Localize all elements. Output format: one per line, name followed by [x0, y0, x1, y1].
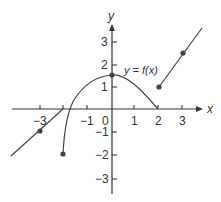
y-tick-label: 3 — [101, 35, 108, 49]
y-axis-arrow-icon — [109, 24, 115, 31]
point-marker — [37, 128, 42, 133]
x-tick-label: 2 — [155, 114, 162, 128]
y-tick-label: 2 — [101, 58, 108, 72]
axes — [12, 30, 201, 194]
point-marker — [109, 72, 114, 77]
y-tick-label: −2 — [95, 148, 109, 162]
middle-curve — [63, 75, 158, 154]
function-graph: −3 −1 0 1 2 3 3 2 1 −1 −2 −3 x y y = f(x… — [0, 0, 221, 202]
x-axis-arrow-icon — [196, 106, 203, 112]
function-label: y = f(x) — [123, 64, 158, 76]
point-marker — [180, 50, 185, 55]
right-line-segment — [159, 28, 202, 87]
x-tick-label: −1 — [80, 114, 94, 128]
point-marker — [60, 151, 65, 156]
y-tick-label: −3 — [95, 172, 109, 186]
x-tick-label: 1 — [131, 114, 138, 128]
x-axis-label: x — [206, 102, 214, 116]
point-marker — [156, 84, 161, 89]
y-tick-label: −1 — [95, 125, 109, 139]
y-axis-label: y — [107, 9, 115, 23]
x-tick-label: 3 — [179, 114, 186, 128]
y-ticks — [112, 42, 117, 179]
y-tick-label: 1 — [101, 80, 108, 94]
